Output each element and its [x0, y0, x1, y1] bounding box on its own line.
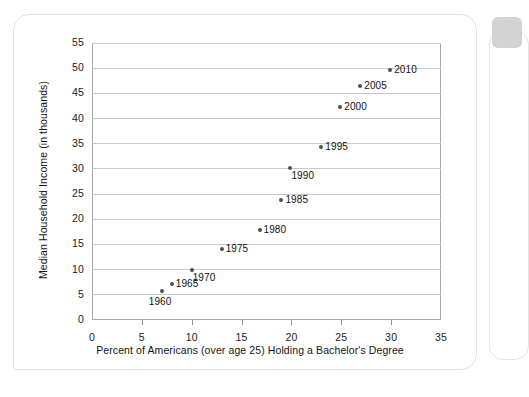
x-tick-mark — [341, 320, 342, 325]
x-tick-label: 25 — [321, 331, 361, 343]
y-axis-title: Median Household Income (in thousands) — [37, 70, 49, 290]
gridline — [92, 118, 441, 119]
y-tick-label: 0 — [44, 313, 84, 325]
data-point — [258, 228, 262, 232]
gridline — [92, 219, 441, 220]
x-tick-mark — [242, 320, 243, 325]
x-axis-title: Percent of Americans (over age 25) Holdi… — [40, 344, 460, 356]
data-point-label: 1970 — [193, 272, 216, 283]
y-tick-label: 45 — [44, 86, 84, 98]
data-point-label: 1990 — [291, 170, 314, 181]
gridline — [92, 194, 441, 195]
gridline — [92, 93, 441, 94]
data-point-label: 2000 — [344, 101, 367, 112]
y-tick-label: 20 — [44, 212, 84, 224]
x-tick-label: 30 — [371, 331, 411, 343]
x-tick-mark — [142, 320, 143, 325]
x-tick-label: 35 — [421, 331, 461, 343]
x-tick-label: 15 — [222, 331, 262, 343]
x-tick-label: 0 — [72, 331, 112, 343]
data-point-label: 1960 — [149, 296, 172, 307]
data-point-label: 1975 — [226, 243, 249, 254]
x-tick-label: 20 — [271, 331, 311, 343]
plot-area — [92, 43, 441, 320]
y-tick-label: 55 — [44, 36, 84, 48]
data-point-label: 2010 — [394, 64, 417, 75]
y-tick-label: 5 — [44, 288, 84, 300]
y-tick-label: 15 — [44, 237, 84, 249]
data-point-label: 1980 — [264, 224, 287, 235]
y-tick-label: 35 — [44, 137, 84, 149]
x-tick-mark — [391, 320, 392, 325]
x-tick-label: 10 — [172, 331, 212, 343]
x-tick-mark — [291, 320, 292, 325]
data-point-label: 1995 — [325, 141, 348, 152]
y-tick-label: 40 — [44, 112, 84, 124]
gridline — [92, 168, 441, 169]
y-tick-label: 50 — [44, 61, 84, 73]
x-tick-mark — [192, 320, 193, 325]
data-point — [170, 282, 174, 286]
gridline — [92, 143, 441, 144]
gridline — [92, 43, 441, 44]
y-tick-label: 10 — [44, 263, 84, 275]
data-point-label: 1985 — [285, 194, 308, 205]
gridline — [92, 269, 441, 270]
y-tick-label: 30 — [44, 162, 84, 174]
y-tick-label: 25 — [44, 187, 84, 199]
gridline — [92, 244, 441, 245]
gridline — [92, 294, 441, 295]
data-point-label: 2005 — [364, 80, 387, 91]
x-tick-label: 5 — [122, 331, 162, 343]
